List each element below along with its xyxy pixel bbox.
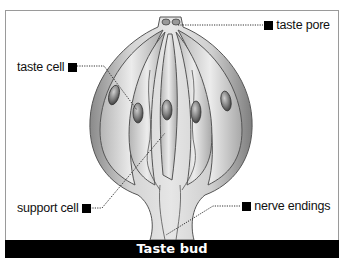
label-marker-icon bbox=[82, 204, 91, 213]
label-marker-icon bbox=[264, 21, 273, 30]
label-taste-cell: taste cell bbox=[17, 60, 77, 74]
label-taste-pore: taste pore bbox=[264, 18, 330, 32]
taste-bud-illustration bbox=[0, 0, 349, 270]
nucleus bbox=[191, 101, 201, 123]
diagram-caption: Taste bud bbox=[5, 240, 339, 258]
nucleus bbox=[162, 100, 172, 120]
label-marker-icon bbox=[242, 202, 251, 211]
label-nerve-endings: nerve endings bbox=[242, 199, 330, 213]
label-marker-icon bbox=[68, 63, 77, 72]
label-support-cell: support cell bbox=[17, 201, 91, 215]
